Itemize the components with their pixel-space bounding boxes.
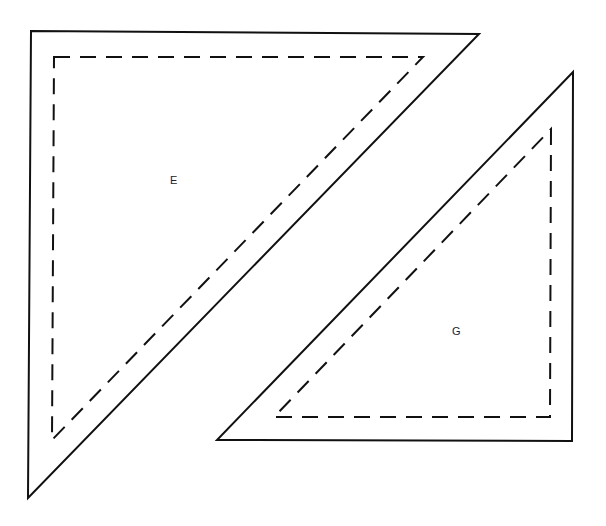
piece-g-seam-line <box>274 129 551 417</box>
piece-g-outline <box>217 72 573 441</box>
pattern-diagram: E G <box>0 0 606 526</box>
piece-e: E <box>28 31 479 498</box>
piece-g-label: G <box>452 325 461 337</box>
piece-e-outline <box>28 31 479 498</box>
piece-g: G <box>217 72 573 441</box>
piece-e-label: E <box>170 174 177 186</box>
piece-e-seam-line <box>52 57 423 440</box>
